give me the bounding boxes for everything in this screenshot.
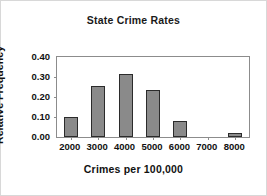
x-tick-label: 8000: [217, 141, 251, 153]
x-axis-label: Crimes per 100,000: [1, 163, 266, 175]
chart-figure: State Crime Rates Relative Frequency 0.0…: [0, 0, 267, 196]
bar: [91, 86, 105, 137]
y-tick-label: 0.00: [20, 132, 50, 141]
x-tick-mark: [71, 137, 72, 140]
x-tick-mark: [153, 137, 154, 140]
y-tick-label: 0.10: [20, 112, 50, 121]
plot-area: [56, 56, 250, 138]
y-tick-label: 0.40: [20, 52, 50, 61]
bar: [173, 121, 187, 137]
x-axis-tick-labels: 2000300040005000600070008000: [56, 141, 250, 155]
bar: [64, 117, 78, 137]
y-tick-mark: [54, 117, 57, 118]
x-tick-mark: [180, 137, 181, 140]
bar: [146, 90, 160, 137]
x-tick-mark: [126, 137, 127, 140]
y-axis-label: Relative Frequency: [0, 46, 5, 144]
y-tick-label: 0.30: [20, 72, 50, 81]
x-tick-mark: [235, 137, 236, 140]
bar: [119, 74, 133, 137]
y-tick-mark: [54, 97, 57, 98]
y-tick-mark: [54, 77, 57, 78]
x-tick-mark: [208, 137, 209, 140]
bars-container: [57, 57, 249, 137]
x-tick-mark: [98, 137, 99, 140]
y-tick-label: 0.20: [20, 92, 50, 101]
